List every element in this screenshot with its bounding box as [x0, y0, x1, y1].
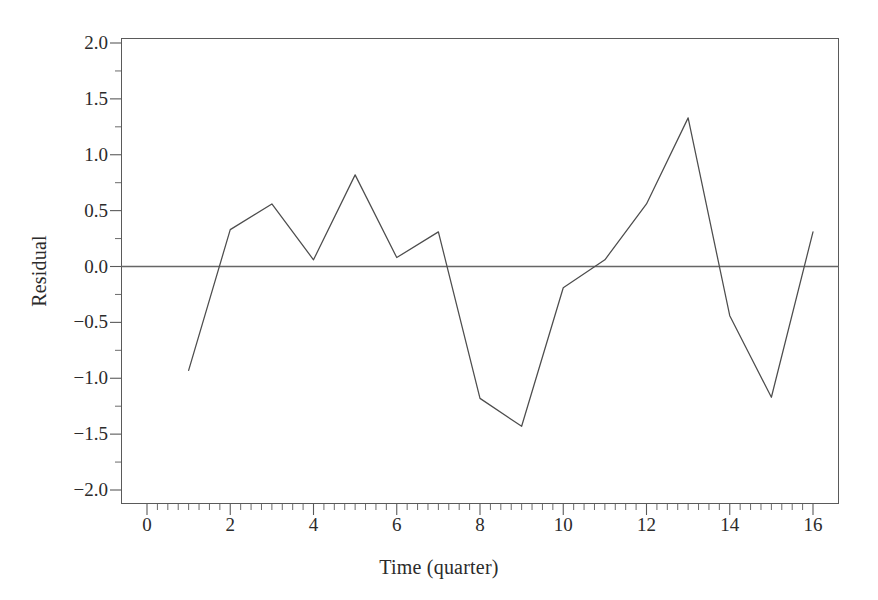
residual-time-chart: −2.0−1.5−1.0−0.50.00.51.01.52.0 02468101…: [0, 0, 878, 600]
x-tick-label: 0: [142, 515, 152, 534]
x-axis-title: Time (quarter): [0, 556, 878, 579]
y-tick-label: −1.5: [74, 424, 108, 443]
plot-frame: [121, 38, 839, 504]
y-tick-label: −2.0: [74, 480, 108, 499]
x-tick-label: 6: [392, 515, 402, 534]
x-tick-label: 16: [804, 515, 823, 534]
y-axis-title-wrap: Residual: [26, 0, 52, 600]
y-axis-title: Residual: [28, 235, 51, 307]
x-axis-tick-labels: 0246810121416: [0, 515, 878, 543]
y-tick-label: 0.5: [84, 201, 108, 220]
y-tick-label: 1.5: [84, 89, 108, 108]
y-tick-label: 1.0: [84, 145, 108, 164]
y-tick-label: −0.5: [74, 312, 108, 331]
x-tick-label: 2: [226, 515, 236, 534]
x-tick-label: 10: [554, 515, 573, 534]
x-tick-label: 8: [475, 515, 485, 534]
y-tick-label: −1.0: [74, 368, 108, 387]
x-tick-label: 12: [637, 515, 656, 534]
y-tick-label: 0.0: [84, 257, 108, 276]
y-axis-tick-labels: −2.0−1.5−1.0−0.50.00.51.01.52.0: [0, 0, 108, 600]
x-tick-label: 4: [309, 515, 319, 534]
x-tick-label: 14: [720, 515, 739, 534]
y-tick-label: 2.0: [84, 33, 108, 52]
y-axis-major-ticks: [110, 43, 121, 490]
x-axis-minor-ticks: [157, 504, 802, 510]
